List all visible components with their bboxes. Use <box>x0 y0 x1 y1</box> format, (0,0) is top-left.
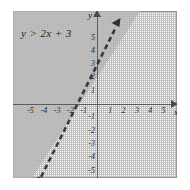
coordinate-graph: -5 -4 -3 -2 -1 1 2 3 4 5 5 4 3 2 1 -1 -2… <box>0 0 190 190</box>
x-tick-label-2: 2 <box>122 107 126 115</box>
x-tick-label--2: -2 <box>67 107 74 115</box>
y-tick-label--1: -1 <box>83 113 95 121</box>
x-tick-label-1: 1 <box>108 107 112 115</box>
y-tick-label--2: -2 <box>83 127 95 135</box>
y-axis-label: y <box>88 11 92 20</box>
x-tick-label--4: -4 <box>40 107 47 115</box>
boundary-line-dashed <box>41 26 116 176</box>
inequality-equation-label: y > 2x + 3 <box>21 27 72 39</box>
x-tick-label-3: 3 <box>135 107 139 115</box>
y-tick-label-1: 1 <box>87 87 95 95</box>
x-axis-label: x <box>174 108 177 117</box>
x-tick-label-5: 5 <box>162 107 166 115</box>
x-tick-label-4: 4 <box>148 107 152 115</box>
boundary-arrow-up-icon <box>112 18 121 27</box>
y-tick-label--3: -3 <box>83 140 95 148</box>
y-tick-label-5: 5 <box>87 34 95 42</box>
y-tick-label--5: -5 <box>83 167 95 175</box>
y-tick-label-4: 4 <box>87 47 95 55</box>
y-tick-label-2: 2 <box>87 73 95 81</box>
y-tick-label-3: 3 <box>87 60 95 68</box>
x-tick-label--3: -3 <box>54 107 61 115</box>
x-tick-label--5: -5 <box>27 107 34 115</box>
y-tick-label--4: -4 <box>83 153 95 161</box>
